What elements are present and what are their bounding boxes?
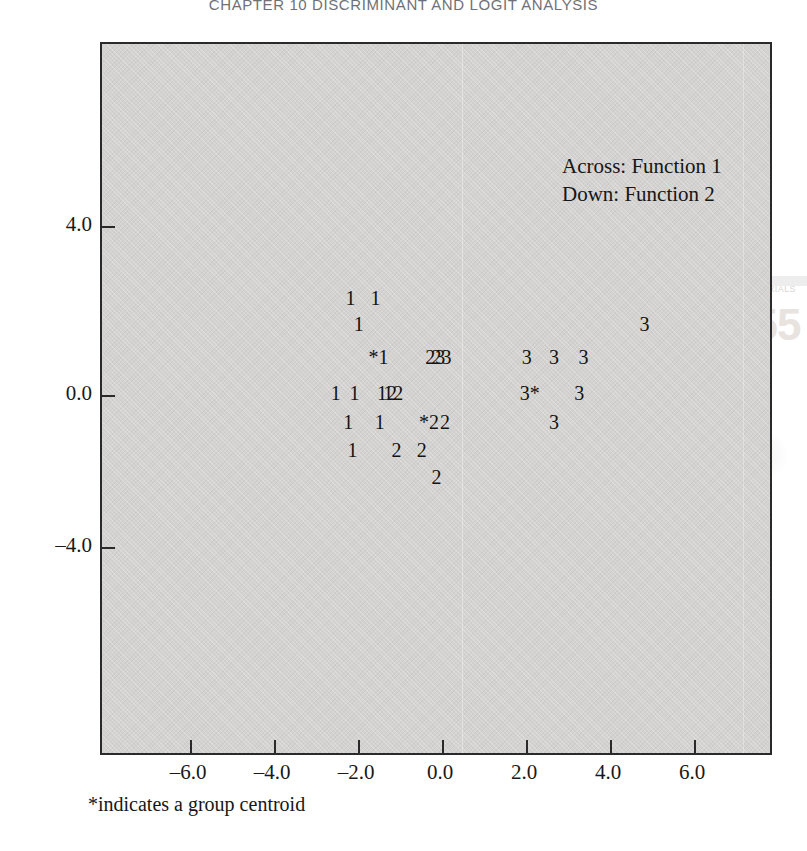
x-tick-0 (442, 740, 444, 753)
data-point-1: 1 (345, 288, 355, 308)
y-tick-4 (102, 226, 115, 228)
data-point-1: 1 (350, 383, 360, 403)
x-axis-label-4: 4.0 (568, 762, 648, 783)
x-tick-6 (694, 740, 696, 753)
running-head: CHAPTER 10 DISCRIMINANT AND LOGIT ANALYS… (0, 0, 807, 14)
x-axis-label-0: 0.0 (400, 762, 480, 783)
data-point-3: 3* (520, 383, 540, 403)
data-point-2: 2 (440, 412, 450, 432)
centroid-footnote: *indicates a group centroid (88, 793, 305, 815)
data-point-1: 1 (348, 440, 358, 460)
data-point-2: 2 (392, 440, 402, 460)
x-tick-neg4 (274, 740, 276, 753)
y-axis-label-0: 0.0 (14, 383, 92, 404)
data-point-1: 1 (371, 288, 381, 308)
x-axis-label-neg6: –6.0 (148, 762, 228, 783)
data-point-3: 3 (549, 347, 559, 367)
data-point-3: 3 (549, 412, 559, 432)
x-axis-label-neg4: –4.0 (232, 762, 312, 783)
x-tick-neg2 (358, 740, 360, 753)
data-point-1: 1 (375, 412, 385, 432)
plot-scan-seam (462, 44, 463, 753)
data-point-3: 3 (639, 314, 649, 334)
data-point-3: 3 (574, 383, 584, 403)
data-point-3: 3 (579, 347, 589, 367)
data-point-3: 23 (432, 347, 452, 367)
x-axis-label-6: 6.0 (652, 762, 732, 783)
x-tick-neg6 (190, 740, 192, 753)
legend-line-across: Across: Function 1 (562, 152, 722, 180)
x-tick-4 (610, 740, 612, 753)
data-point-2: 2 (432, 467, 442, 487)
scatter-plot-frame: Across: Function 1 Down: Function 2 111*… (100, 42, 772, 755)
data-point-1: *1 (369, 347, 389, 367)
data-point-2: *2 (419, 412, 439, 432)
y-axis-label-neg4: –4.0 (14, 535, 92, 556)
x-axis-label-2: 2.0 (484, 762, 564, 783)
plot-scan-seam-right (743, 44, 744, 753)
plot-legend: Across: Function 1 Down: Function 2 (562, 152, 722, 208)
plot-background-texture (102, 44, 770, 753)
data-point-3: 3 (522, 347, 532, 367)
y-axis-label-4: 4.0 (14, 214, 92, 235)
legend-line-down: Down: Function 2 (562, 180, 722, 208)
data-point-1: 1 (354, 314, 364, 334)
y-tick-0 (102, 395, 115, 397)
data-point-1: 1 (343, 412, 353, 432)
x-tick-2 (526, 740, 528, 753)
data-point-2: 12 (383, 383, 403, 403)
data-point-2: 2 (417, 440, 427, 460)
data-point-1: 1 (331, 383, 341, 403)
x-axis-label-neg2: –2.0 (316, 762, 396, 783)
y-tick-neg4 (102, 547, 115, 549)
